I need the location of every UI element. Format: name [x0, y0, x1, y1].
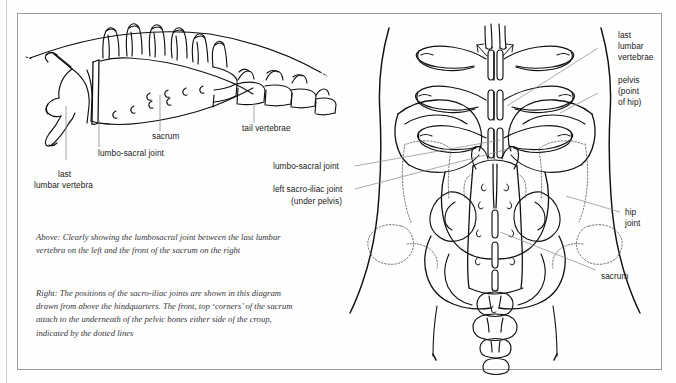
label-hip-joint-line1: hip: [625, 207, 636, 218]
label-left-sacro-iliac-joint: left sacro-iliac joint: [273, 184, 342, 195]
leader-sacrum-right: [500, 232, 596, 270]
label-last-lumbar-vertebrae-line2: lumbar: [618, 41, 644, 52]
label-pelvis-line3: of hip): [618, 97, 641, 108]
caption-right-lead: Right:: [36, 288, 58, 298]
leader-last-lumbar-vertebrae-right: [507, 48, 598, 106]
caption-right-body: The positions of the sacro-iliac joints …: [36, 288, 292, 338]
label-last-lumbar-vertebrae-line1: last: [618, 30, 631, 41]
label-left-sacro-iliac-joint-sub: (under pelvis): [291, 196, 342, 207]
label-sacrum-right: sacrum: [601, 271, 629, 282]
leader-pelvis-point-of-hip: [560, 93, 598, 113]
label-pelvis-line2: (point: [618, 86, 639, 97]
caption-above-body: Clearly showing the lumbosacral joint be…: [36, 232, 281, 255]
label-last-lumbar-vertebrae-line3: vertebrae: [618, 52, 654, 63]
label-hip-joint-line2: joint: [625, 218, 640, 229]
leader-lumbo-sacral-joint-right: [355, 140, 500, 166]
leader-hip-joint: [566, 196, 620, 212]
label-pelvis-line1: pelvis: [618, 75, 640, 86]
caption-above: Above: Clearly showing the lumbosacral j…: [36, 231, 304, 257]
caption-above-lead: Above:: [36, 232, 60, 242]
label-lumbo-sacral-joint-right: lumbo-sacral joint: [273, 161, 339, 172]
leader-left-sacro-iliac-joint: [355, 148, 512, 189]
figure-page: tail vertebrae sacrum lumbo-sacral joint…: [0, 0, 676, 383]
caption-right: Right: The positions of the sacro-iliac …: [36, 287, 304, 340]
